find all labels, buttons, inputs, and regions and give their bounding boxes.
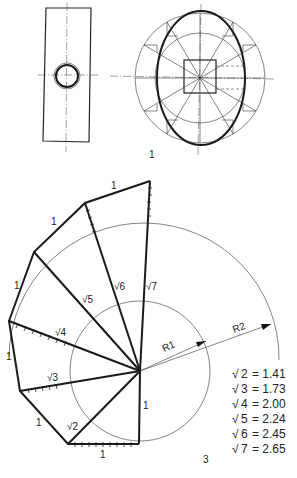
sqrt2-label: √2 — [67, 421, 78, 432]
svg-text:= 1.73: = 1.73 — [252, 382, 286, 396]
svg-text:√: √ — [232, 427, 239, 441]
r2-label: R2 — [231, 320, 247, 335]
sqrt3-label: √3 — [47, 372, 58, 383]
svg-text:2: 2 — [241, 367, 248, 381]
edge-label: 1 — [36, 417, 42, 428]
figure-3-square-root-spiral: 1 1 1 1 1 1 1 √2 √3 √4 √5 √6 √7 R1 R2 3 … — [6, 180, 286, 465]
sqrt4-label: √4 — [55, 327, 66, 338]
svg-text:√: √ — [232, 397, 239, 411]
side-view — [38, 3, 100, 152]
edge-label: 1 — [100, 449, 106, 460]
figure-3-label: 3 — [203, 454, 209, 465]
spiral-outline — [9, 181, 150, 444]
figure-1: 1 — [38, 3, 276, 160]
svg-text:5: 5 — [241, 412, 248, 426]
ellipse-construction — [110, 4, 276, 155]
edge-label: 1 — [14, 280, 20, 291]
sqrt5-label: √5 — [82, 294, 93, 305]
svg-text:√: √ — [232, 382, 239, 396]
svg-text:= 2.45: = 2.45 — [252, 427, 286, 441]
r1-label: R1 — [160, 338, 177, 353]
svg-text:= 2.24: = 2.24 — [252, 412, 286, 426]
drawing-canvas: 1 — [0, 0, 297, 478]
edge-label: 1 — [143, 400, 149, 411]
svg-text:√: √ — [232, 367, 239, 381]
sqrt7-label: √7 — [146, 281, 157, 292]
figure-1-label: 1 — [149, 149, 155, 160]
sqrt-table: √ 2 = 1.41 √ 3 = 1.73 √ 4 = 2.00 √ 5 = 2… — [232, 367, 286, 456]
edge-label: 1 — [51, 216, 57, 227]
svg-text:6: 6 — [241, 427, 248, 441]
svg-text:= 2.00: = 2.00 — [252, 397, 286, 411]
svg-text:√: √ — [232, 442, 239, 456]
svg-text:√: √ — [232, 412, 239, 426]
sqrt6-label: √6 — [114, 281, 125, 292]
svg-text:= 1.41: = 1.41 — [252, 367, 286, 381]
svg-text:= 2.65: = 2.65 — [252, 442, 286, 456]
edge-label: 1 — [111, 180, 117, 191]
edge-label: 1 — [6, 351, 12, 362]
svg-text:3: 3 — [241, 382, 248, 396]
svg-text:7: 7 — [241, 442, 248, 456]
svg-text:4: 4 — [241, 397, 248, 411]
